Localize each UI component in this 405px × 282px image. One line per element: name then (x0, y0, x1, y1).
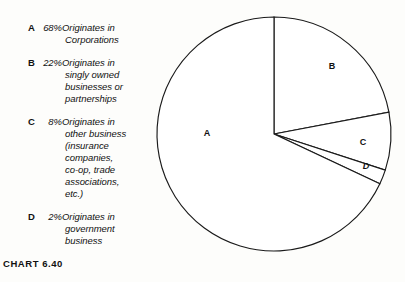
pie-label-d: D (363, 161, 370, 171)
legend-desc-first-a: Originates in (62, 22, 115, 33)
legend-desc-line: partnerships (41, 93, 123, 105)
legend-percent-a: 68% (41, 22, 62, 34)
legend-desc-first-b: Originates in (62, 57, 115, 68)
legend-desc-line: businesses or (41, 81, 123, 93)
legend-desc-line: (insurance (41, 140, 126, 152)
legend-desc-line: associations, (41, 176, 126, 188)
legend-desc-line: singly owned (41, 69, 123, 81)
legend-desc-line: companies, (41, 152, 126, 164)
legend-desc-line: etc.) (41, 188, 126, 200)
legend-desc-line: other business (41, 128, 126, 140)
legend-text-a: 68%Originates in Corporations (41, 22, 119, 46)
legend-text-c: 8%Originates in other business (insuranc… (41, 116, 126, 200)
chart-page: A 68%Originates in Corporations B 22%Ori… (0, 0, 405, 282)
legend-percent-c: 8% (41, 116, 62, 128)
legend-percent-b: 22% (41, 57, 62, 69)
pie-label-b: B (329, 61, 336, 71)
legend-key-a: A (28, 22, 41, 34)
pie-label-c: C (360, 137, 367, 147)
pie-chart: A B C D (150, 0, 405, 282)
legend-key-b: B (28, 57, 41, 69)
legend-key-d: D (28, 211, 41, 223)
legend-desc-first-d: Originates in (62, 211, 115, 222)
pie-label-a: A (204, 128, 211, 138)
pie-chart-svg: A B C D (150, 0, 405, 282)
legend-key-c: C (28, 116, 41, 128)
pie-slice-group (157, 17, 391, 251)
legend-percent-d: 2% (41, 211, 62, 223)
legend-desc-line: co-op, trade (41, 164, 126, 176)
chart-caption: CHART 6.40 (3, 258, 63, 269)
legend-text-b: 22%Originates in singly owned businesses… (41, 57, 123, 105)
legend-text-d: 2%Originates in government business (41, 211, 115, 247)
legend-desc-line: Corporations (41, 34, 119, 46)
legend-desc-line: government (41, 223, 115, 235)
legend-desc-line: business (41, 235, 115, 247)
legend-desc-first-c: Originates in (62, 116, 115, 127)
